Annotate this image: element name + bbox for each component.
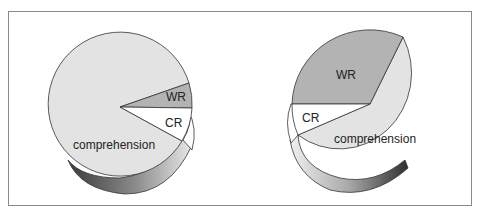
right-pie: WR CR comprehension — [288, 30, 417, 193]
left-pie: WR CR comprehension — [48, 32, 194, 194]
right-pie-label-comprehension: comprehension — [334, 132, 416, 146]
pie-charts: WR CR comprehension WR CR comprehension — [0, 0, 481, 218]
left-pie-label-wr: WR — [166, 90, 186, 104]
left-pie-label-cr: CR — [165, 116, 183, 130]
right-pie-label-wr: WR — [336, 68, 356, 82]
right-pie-label-cr: CR — [302, 111, 320, 125]
left-pie-label-comprehension: comprehension — [73, 138, 155, 152]
